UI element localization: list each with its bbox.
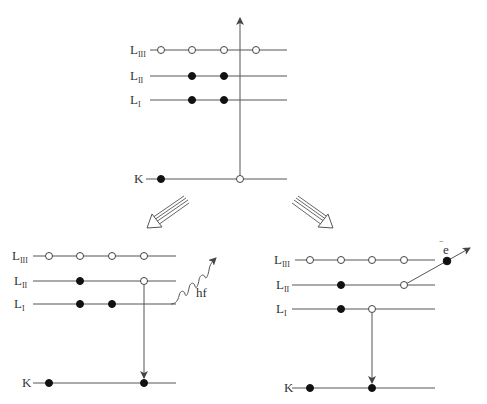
top-panel: LIII LII LI K (130, 18, 287, 186)
vacancy (237, 176, 244, 183)
left-panel-fluorescence: LIII LII LI K hf (12, 248, 216, 390)
electron (221, 73, 228, 80)
level-label: LIII (130, 42, 146, 59)
vacancy (221, 47, 228, 54)
electron (189, 97, 196, 104)
level-K-top: K (134, 171, 287, 186)
level-L3-top: LIII (130, 42, 287, 59)
split-arrow-left-icon (147, 196, 189, 228)
vacancy (189, 47, 196, 54)
photon-wave-icon (171, 258, 216, 304)
svg-text:LI: LI (130, 92, 141, 109)
svg-text:LII: LII (14, 273, 28, 290)
ejected-electron (443, 257, 451, 265)
svg-text:LI: LI (276, 301, 287, 318)
right-panel-auger: LIII LII LI K − e (274, 237, 470, 395)
svg-text:LIII: LIII (12, 248, 28, 265)
electron-label: e (443, 242, 449, 257)
svg-text:K: K (22, 375, 32, 390)
electron (189, 73, 196, 80)
svg-text:LI: LI (14, 296, 25, 313)
auger-fluorescence-diagram: LIII LII LI K (0, 0, 487, 404)
svg-text:LII: LII (130, 68, 144, 85)
electron (221, 97, 228, 104)
split-arrow-right-icon (292, 196, 333, 228)
vacancy (158, 47, 165, 54)
svg-text:LII: LII (276, 277, 290, 294)
auger-ejection-arrow (404, 248, 470, 285)
level-L1-top: LI (130, 92, 287, 109)
svg-text:LIII: LIII (274, 252, 290, 269)
electron (158, 176, 165, 183)
vacancy (253, 47, 260, 54)
level-L2-top: LII (130, 68, 287, 85)
svg-text:K: K (134, 171, 144, 186)
photon-label: hf (196, 285, 208, 300)
